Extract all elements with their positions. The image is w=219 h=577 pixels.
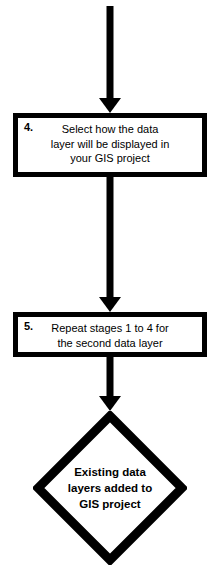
arrow-head-icon [99, 396, 121, 411]
arrow-shaft [107, 6, 114, 99]
process-box-step-4: 4. Select how the data layer will be dis… [13, 113, 207, 177]
result-diamond-text: Existing data layers added to GIS projec… [33, 411, 187, 565]
text-line: GIS project [79, 496, 140, 512]
arrow-shaft [107, 357, 114, 397]
arrow-step-5-to-result [96, 357, 124, 411]
text-line: your GIS project [26, 151, 194, 166]
arrow-head-icon [99, 297, 121, 312]
arrow-shaft [107, 177, 114, 298]
step-number-4: 4. [24, 121, 33, 133]
text-line: layers added to [68, 480, 152, 496]
text-line: the second data layer [26, 336, 194, 351]
process-box-step-5-text: Repeat stages 1 to 4 for the second data… [18, 317, 202, 356]
process-box-step-5: 5. Repeat stages 1 to 4 for the second d… [13, 312, 207, 357]
flowchart-diagram: 4. Select how the data layer will be dis… [0, 0, 219, 577]
result-diamond-node: Existing data layers added to GIS projec… [33, 411, 187, 565]
step-number-5: 5. [24, 320, 33, 332]
text-line: Existing data [74, 464, 146, 480]
arrow-head-icon [99, 98, 121, 113]
arrow-into-step-4 [96, 6, 124, 113]
arrow-step-4-to-step-5 [96, 177, 124, 312]
text-line: Repeat stages 1 to 4 for [26, 321, 194, 336]
process-box-step-4-text: Select how the data layer will be displa… [18, 118, 202, 172]
text-line: Select how the data [26, 122, 194, 137]
text-line: layer will be displayed in [26, 137, 194, 152]
